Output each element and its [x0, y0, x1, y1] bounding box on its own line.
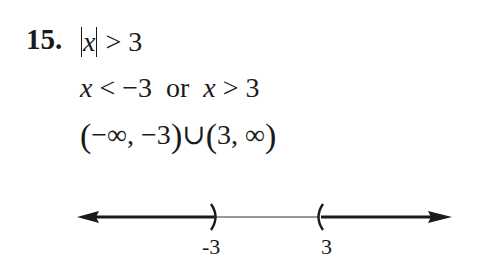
left-arrow-icon — [77, 211, 99, 223]
right-arrow-icon — [428, 211, 452, 223]
number-line — [0, 0, 478, 274]
tick-label-3: 3 — [321, 236, 332, 258]
tick-label-neg3: -3 — [202, 236, 220, 258]
